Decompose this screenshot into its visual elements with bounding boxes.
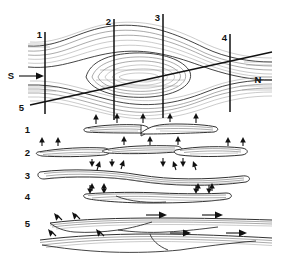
direction-south-arrow-icon — [19, 73, 44, 80]
direction-north-label: N — [255, 74, 262, 85]
section-row-2: 2 — [25, 136, 248, 167]
section-5-sheet-lower — [40, 234, 272, 252]
section-line-3-label: 3 — [155, 12, 160, 23]
central-lens-structure — [86, 53, 191, 97]
section-row-3: 3 — [25, 160, 250, 194]
section-2-arrows-down — [89, 158, 186, 167]
figure-root: 1 2 3 4 5 S N 1 — [0, 0, 281, 260]
upper-fold-band — [28, 22, 272, 80]
section-line-1-label: 1 — [37, 29, 43, 40]
section-line-4-label: 4 — [222, 32, 228, 43]
section-row-4: 4 — [25, 183, 232, 203]
section-row-5-label: 5 — [25, 218, 31, 229]
section-1-body-right — [141, 124, 218, 134]
section-line-5-label: 5 — [19, 102, 25, 113]
section-row-5: 5 — [25, 212, 272, 253]
section-row-4-label: 4 — [25, 191, 31, 202]
section-row-3-label: 3 — [25, 170, 30, 181]
direction-south-label: S — [8, 70, 14, 81]
section-row-2-label: 2 — [25, 147, 30, 158]
section-row-1: 1 — [25, 113, 218, 136]
block-diagram: 1 2 3 4 5 S N — [8, 12, 272, 120]
cross-section-figure: 1 2 3 4 5 S N 1 — [0, 0, 281, 260]
section-row-1-label: 1 — [25, 124, 31, 135]
section-line-2-label: 2 — [106, 16, 111, 27]
section-5-sheet-upper — [50, 218, 272, 232]
section-2-arrows-up — [39, 136, 246, 146]
section-5-arrows-upper — [54, 212, 223, 221]
